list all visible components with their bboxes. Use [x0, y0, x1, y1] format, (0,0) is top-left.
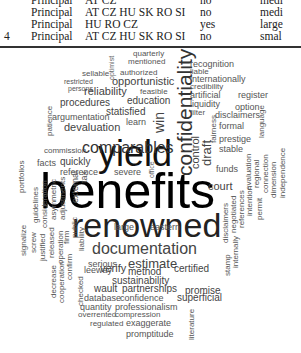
cloud-word: certified [174, 264, 209, 274]
cloud-word: filter [190, 109, 205, 117]
cloud-word: register [238, 91, 268, 100]
cloud-word: asymmetric [50, 179, 58, 220]
cloud-word: disclaimers [222, 203, 230, 243]
cloud-word: dimension [270, 162, 278, 198]
cloud-word: devaluation [64, 122, 120, 133]
cloud-word: overrented [78, 311, 116, 319]
cloud-word: prestige [219, 135, 251, 144]
cloud-word: internally [232, 236, 240, 268]
cloud-word: draft [200, 140, 213, 166]
cloud-word: liability [78, 227, 86, 251]
cloud-word: stable [219, 145, 243, 154]
row-flag: no [200, 6, 212, 18]
row-countries: AT CZ HU SK RO SI [85, 6, 185, 18]
table-row: 4 Principal AT CZ HU SK RO SI no smal [0, 30, 301, 42]
cloud-word: education [127, 96, 170, 106]
cloud-word: negotiated [230, 196, 238, 233]
cloud-word: documentation [92, 241, 197, 257]
cloud-word: superficial [177, 293, 222, 303]
cloud-word: adjustments [59, 177, 67, 220]
row-index: 4 [4, 30, 10, 42]
row-size: smal [260, 30, 282, 42]
cloud-word: comparables [82, 140, 174, 156]
cloud-word: reliability [84, 86, 127, 97]
cloud-word: statisfied [106, 107, 145, 117]
cloud-word: confirm [66, 254, 74, 280]
cloud-word: formal [219, 122, 244, 131]
cloud-word: facts [37, 159, 56, 168]
cloud-word: stamp [224, 254, 232, 276]
cloud-word: office [148, 161, 155, 178]
cloud-word: regional [253, 160, 261, 188]
cloud-word: procedures [60, 98, 110, 108]
cloud-word: commission [44, 147, 86, 155]
cloud-word: promptitude [126, 330, 174, 339]
cloud-word: mentioned [128, 58, 165, 66]
cloud-word: references [238, 190, 246, 228]
table-row: Principal HU RO CZ yes large [0, 18, 301, 30]
cloud-word: guidelines [32, 187, 40, 223]
cloud-word: tax [80, 171, 89, 183]
row-flag: yes [200, 18, 215, 30]
cloud-word: restricted [64, 78, 93, 85]
cloud-word: funds [216, 165, 238, 174]
cloud-word: quickly [60, 157, 91, 167]
row-size: medi [260, 6, 283, 18]
row-role: Principal [31, 30, 73, 42]
cloud-word: severe [114, 168, 141, 177]
row-size: large [260, 18, 283, 30]
cloud-word: signalize [20, 225, 28, 256]
cloud-word: consideration [41, 180, 49, 228]
cloud-word: disclaimers [215, 111, 260, 120]
cloud-word: exaggerate [126, 319, 171, 328]
cloud-word: eastern [150, 223, 180, 232]
cloud-word: literature [188, 309, 196, 340]
results-table-fragment: Principal AT CZ no medi Principal AT CZ … [0, 0, 301, 48]
cloud-word: portfolios [18, 161, 26, 193]
cloud-word: learn [126, 118, 146, 127]
row-flag: no [200, 30, 212, 42]
row-countries: HU RO CZ [85, 18, 138, 30]
cloud-word: released [48, 227, 56, 258]
cloud-word: court [208, 181, 232, 192]
word-cloud: benefitsyieldrenownedconfidentialitycomp… [0, 48, 301, 353]
cloud-word: large [114, 223, 134, 232]
cloud-word: justified [39, 234, 47, 261]
cloud-word: screw [30, 232, 38, 253]
cloud-word: fairness [210, 115, 218, 143]
table-row: Principal AT CZ HU SK RO SI no medi [0, 6, 301, 18]
cloud-word: sellable [82, 70, 109, 78]
row-role: Principal [31, 6, 73, 18]
cloud-word: independence [279, 148, 287, 198]
row-role: Principal [31, 18, 73, 30]
cloud-word: regulated [90, 320, 123, 328]
cloud-word: verify [100, 263, 126, 274]
cloud-word: renowned [72, 208, 221, 242]
row-countries: AT CZ HU SK RO SI [85, 30, 185, 42]
cloud-word: win [152, 112, 166, 133]
cloud-word: permit [256, 198, 264, 220]
cloud-word: intention [246, 186, 254, 216]
cloud-word: patience [46, 106, 54, 136]
cloud-word: language [258, 105, 266, 138]
